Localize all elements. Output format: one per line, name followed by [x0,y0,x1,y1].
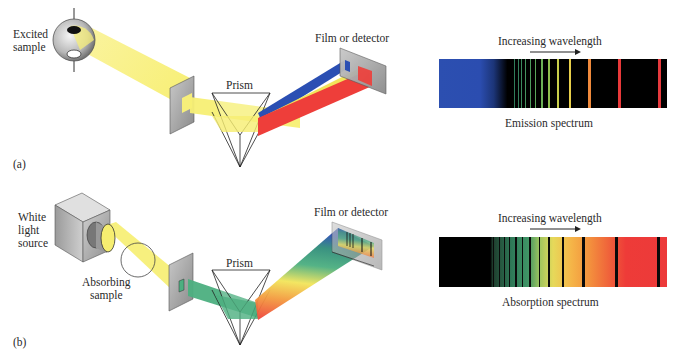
emission-line [518,59,519,108]
absorption-line [539,237,541,287]
absorption-line [504,237,505,287]
absorption-spectrum [439,237,667,287]
emission-line [541,59,543,108]
absorption-caption: Absorption spectrum [502,296,599,309]
absorption-line [529,237,531,287]
detector-label-a: Film or detector [315,32,389,45]
emission-line [525,59,526,108]
excited-sample-sphere [53,8,95,72]
emission-line [618,59,621,108]
absorption-line [582,237,585,287]
prism-label-b: Prism [226,257,253,270]
emission-line [658,59,661,108]
absorption-line [499,237,500,287]
absorption-line [657,237,660,287]
label-line: sample [13,41,48,54]
emission-line [569,59,571,108]
emission-line [514,59,515,108]
panel-tag-b: (b) [13,336,26,349]
excited-sample-label: Excited sample [13,28,48,54]
emission-line [521,59,522,108]
label-line: White [18,211,48,224]
prism-label-a: Prism [226,79,253,92]
panel-tag-a: (a) [13,158,26,171]
emission-line [588,59,591,108]
label-line: sample [82,289,131,302]
emission-line [557,59,559,108]
wavelength-label-b: Increasing wavelength [498,212,602,225]
label-line: source [18,237,48,250]
absorption-line [509,237,510,287]
absorption-line [562,237,564,287]
label-line: light [18,224,48,237]
absorption-line [493,237,494,287]
white-light-source-label: White light source [18,211,48,250]
emission-spectrum [439,59,667,108]
absorption-line [522,237,523,287]
white-light-source-box [55,193,110,262]
detector-label-b: Film or detector [314,206,388,219]
absorption-line [515,237,516,287]
wavelength-arrow-b [530,226,581,232]
absorption-line [548,237,550,287]
emission-line [530,59,532,108]
label-line: Excited [13,28,48,41]
absorption-line [615,237,618,287]
wavelength-label-a: Increasing wavelength [498,35,602,48]
absorbing-sample-label: Absorbing sample [82,276,131,302]
label-line: Absorbing [82,276,131,289]
emission-line [535,59,537,108]
emission-caption: Emission spectrum [505,117,593,130]
emission-line [548,59,550,108]
wavelength-arrow-a [530,49,581,55]
